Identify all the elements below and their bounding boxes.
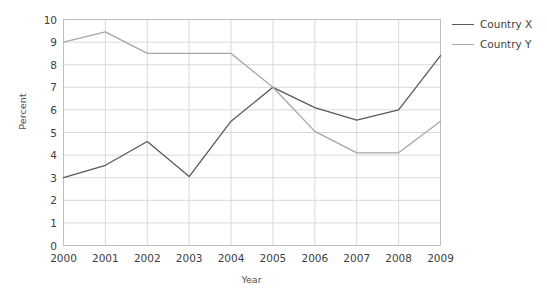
line-chart: Percent 012345678910 2000200120022003200… — [0, 0, 547, 302]
legend-label-country-y: Country Y — [480, 38, 531, 50]
legend-swatch-country-y — [452, 44, 474, 45]
legend-item-country-x[interactable]: Country X — [452, 14, 547, 34]
legend-swatch-country-x — [452, 24, 474, 25]
legend: Country X Country Y — [452, 14, 547, 54]
legend-item-country-y[interactable]: Country Y — [452, 34, 547, 54]
x-tick-label: 2009 — [414, 252, 468, 264]
x-axis-title: Year — [63, 274, 440, 285]
legend-label-country-x: Country X — [480, 18, 532, 30]
